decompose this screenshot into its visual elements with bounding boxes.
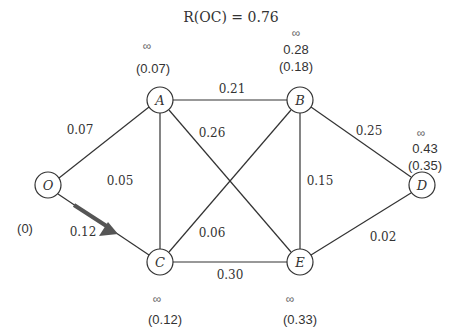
nodes: O A B C E D (35, 87, 435, 275)
node-D-upper: 0.43 (412, 141, 437, 156)
node-E: E (287, 249, 313, 275)
node-D: D (409, 172, 435, 198)
edge-O-A (59, 107, 149, 178)
node-B-value: (0.18) (279, 59, 313, 74)
node-D-infinity-icon: ∞ (417, 126, 426, 140)
node-label: O (43, 178, 54, 193)
node-D-value: (0.35) (408, 158, 442, 173)
network-diagram: R(OC) = 0.76 0.07 0.12 0.21 0.05 0.26 0.… (0, 0, 462, 335)
weight-A-B: 0.21 (219, 82, 246, 96)
weight-B-D: 0.25 (356, 124, 383, 138)
node-label: E (294, 255, 305, 270)
node-C-value: (0.12) (148, 312, 182, 327)
node-label: A (154, 93, 164, 108)
weight-A-C: 0.05 (107, 174, 134, 188)
node-E-value: (0.33) (283, 312, 317, 327)
node-label: B (294, 93, 305, 108)
node-A-value: (0.07) (136, 61, 170, 76)
weight-A-E: 0.26 (199, 126, 226, 140)
weight-O-A: 0.07 (67, 123, 94, 137)
node-B-upper: 0.28 (283, 42, 308, 57)
node-E-infinity-icon: ∞ (286, 292, 295, 306)
node-B: B (287, 87, 313, 113)
node-O: O (35, 172, 61, 198)
weight-C-E: 0.30 (217, 268, 244, 282)
node-label: D (416, 178, 428, 193)
weight-B-C: 0.06 (199, 226, 226, 240)
node-A-infinity-icon: ∞ (143, 39, 152, 53)
node-label: C (155, 255, 165, 270)
node-C-infinity-icon: ∞ (153, 292, 162, 306)
weight-B-E: 0.15 (307, 174, 334, 188)
node-B-infinity-icon: ∞ (292, 26, 301, 40)
node-A: A (147, 87, 173, 113)
weight-O-C: 0.12 (70, 225, 97, 239)
edge-B-D (311, 107, 411, 177)
weight-E-D: 0.02 (370, 230, 397, 244)
node-C: C (147, 249, 173, 275)
title: R(OC) = 0.76 (183, 9, 279, 25)
edge-E-D (311, 193, 411, 255)
node-O-value: (0) (17, 221, 33, 236)
